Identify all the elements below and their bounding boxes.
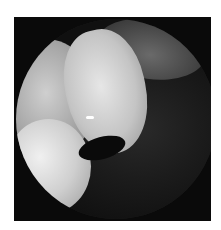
endoscopic-view	[16, 19, 211, 219]
image-frame	[14, 17, 211, 221]
specular-highlight	[86, 116, 94, 119]
